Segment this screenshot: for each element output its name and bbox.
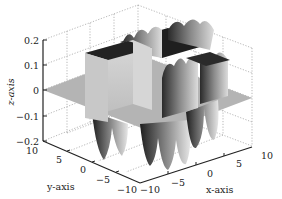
z-tick: 0.1 xyxy=(24,60,39,71)
z-tick-labels: 0.2 0.1 0 −0.1 −0.2 xyxy=(16,35,39,147)
z-tick: 0.2 xyxy=(24,35,39,46)
x-tick: 10 xyxy=(261,150,273,161)
x-tick: −5 xyxy=(171,177,185,188)
x-axis-label: x-axis xyxy=(206,184,233,195)
x-tick: 5 xyxy=(236,158,242,169)
y-tick: −5 xyxy=(96,174,110,185)
y-axis-label: y-axis xyxy=(46,181,75,192)
y-tick: 5 xyxy=(56,154,62,165)
y-tick: 10 xyxy=(26,145,38,156)
z-tick: −0.1 xyxy=(16,111,39,122)
surface xyxy=(43,19,252,170)
x-tick: 0 xyxy=(207,168,213,179)
y-tick: −10 xyxy=(117,184,137,195)
x-tick: −10 xyxy=(140,184,160,195)
z-tick: 0 xyxy=(33,85,39,96)
z-axis-label: z-axis xyxy=(5,78,16,106)
surface-plot: 0.2 0.1 0 −0.1 −0.2 10 5 0 −5 −10 −10 −5… xyxy=(0,0,282,199)
y-tick: 0 xyxy=(80,164,86,175)
